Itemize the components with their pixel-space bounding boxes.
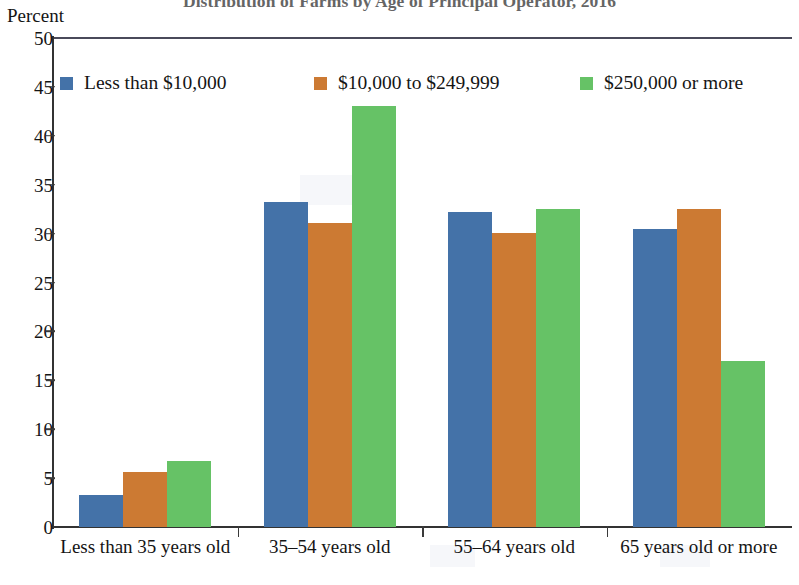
- x-tick-label: 55–64 years old: [422, 536, 607, 558]
- legend-item[interactable]: $10,000 to $249,999: [314, 72, 499, 94]
- bar-chart-figure: Distribution of Farms by Age of Principa…: [0, 0, 799, 585]
- y-tick-label: 0: [9, 518, 53, 537]
- bar: [448, 212, 492, 527]
- bar: [536, 209, 580, 527]
- bar: [633, 229, 677, 527]
- legend-swatch-icon: [314, 77, 327, 90]
- bar-group: [633, 38, 765, 527]
- bar: [352, 106, 396, 527]
- bar-group: [264, 38, 396, 527]
- bar: [123, 472, 167, 527]
- plot-area: [53, 38, 791, 527]
- y-tick-label: 50: [9, 29, 53, 48]
- bar: [677, 209, 721, 527]
- legend-label: Less than $10,000: [84, 72, 226, 94]
- legend-swatch-icon: [580, 77, 593, 90]
- bar: [721, 361, 765, 527]
- x-tick-label: 65 years old or more: [607, 536, 792, 558]
- legend-item[interactable]: Less than $10,000: [60, 72, 226, 94]
- x-tick-label: 35–54 years old: [238, 536, 423, 558]
- chart-legend: Less than $10,000$10,000 to $249,999$250…: [60, 72, 760, 100]
- x-tick-mark: [607, 526, 609, 537]
- legend-label: $10,000 to $249,999: [338, 72, 499, 94]
- legend-label: $250,000 or more: [604, 72, 743, 94]
- bar: [492, 233, 536, 527]
- x-tick-mark: [238, 526, 240, 537]
- bar: [167, 461, 211, 527]
- legend-item[interactable]: $250,000 or more: [580, 72, 743, 94]
- x-tick-mark: [422, 526, 424, 537]
- bar-group: [448, 38, 580, 527]
- bar-group: [79, 38, 211, 527]
- chart-title: Distribution of Farms by Age of Principa…: [0, 0, 799, 12]
- bar: [264, 202, 308, 527]
- bar: [308, 223, 352, 527]
- x-tick-label: Less than 35 years old: [53, 536, 238, 558]
- y-axis: 05101520253035404550: [0, 0, 53, 585]
- bar: [79, 495, 123, 527]
- legend-swatch-icon: [60, 77, 73, 90]
